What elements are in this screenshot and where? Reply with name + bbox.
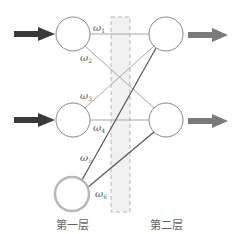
output-node-2 bbox=[149, 103, 183, 137]
weight-label-w4: ω4 bbox=[93, 122, 105, 134]
neural-network-diagram: ω1 ω2 ω3 ω4 ω5 ω6 bbox=[0, 0, 237, 234]
layer-label-first: 第一层 bbox=[47, 216, 97, 232]
weight-label-w2: ω2 bbox=[80, 52, 92, 64]
output-arrow-2 bbox=[188, 114, 228, 128]
weight-label-w3: ω3 bbox=[80, 90, 92, 102]
output-arrow-1 bbox=[188, 28, 228, 42]
input-arrow-1 bbox=[14, 27, 55, 41]
input-node-2 bbox=[56, 103, 90, 137]
bias-node bbox=[55, 177, 89, 211]
weight-label-w6: ω6 bbox=[95, 188, 107, 200]
input-node-1 bbox=[56, 17, 90, 51]
weight-label-w1: ω1 bbox=[93, 22, 105, 34]
layer-label-second: 第二层 bbox=[141, 216, 191, 232]
weight-label-w5: ω5 bbox=[80, 152, 92, 164]
output-node-1 bbox=[149, 17, 183, 51]
input-arrow-2 bbox=[14, 113, 55, 127]
highlight-band bbox=[111, 17, 130, 212]
